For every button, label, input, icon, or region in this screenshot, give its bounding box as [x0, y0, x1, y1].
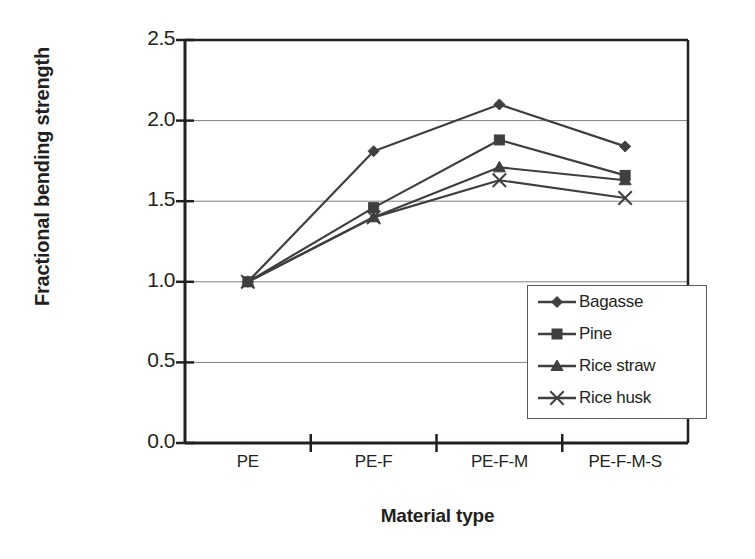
legend-item: Rice husk [528, 382, 706, 414]
x-axis-tick-label: PE-F-M-S [589, 452, 662, 472]
marker-diamond [620, 141, 631, 152]
series-rice-husk [241, 174, 632, 289]
legend-marker-square-icon [536, 324, 578, 344]
legend-item-label: Pine [579, 324, 612, 344]
x-axis-tick-label: PE-F-M [471, 452, 528, 472]
x-axis-tick-label: PE [237, 452, 259, 472]
x-axis-tick-label: PE-F [355, 452, 393, 472]
legend-item-label: Rice straw [579, 356, 655, 376]
legend-marker-diamond-icon [536, 292, 578, 312]
chart-container: Fractional bending strength 0.00.51.01.5… [0, 0, 755, 559]
marker-triangle [493, 161, 505, 172]
legend-marker-cross-icon [536, 388, 578, 408]
series-line [248, 140, 625, 282]
marker-square [494, 135, 504, 145]
series-rice-straw [242, 161, 631, 286]
chart-legend: BagassePineRice strawRice husk [527, 285, 707, 419]
y-axis-tick-label: 0.5 [105, 349, 175, 370]
x-axis-title: Material type [185, 505, 690, 527]
legend-item-label: Rice husk [579, 388, 651, 408]
legend-item-label: Bagasse [579, 292, 643, 312]
series-pine [243, 135, 630, 287]
y-axis-title: Fractional bending strength [31, 17, 54, 337]
y-axis-tick-label: 2.0 [105, 108, 175, 129]
y-axis-tick-label: 2.5 [105, 27, 175, 48]
marker-diamond [552, 297, 563, 308]
legend-marker-triangle-icon [536, 356, 578, 376]
legend-item: Pine [528, 318, 706, 350]
legend-item: Bagasse [528, 286, 706, 318]
y-axis-tick-label: 1.0 [105, 269, 175, 290]
y-axis-tick-label: 0.0 [105, 430, 175, 451]
legend-item: Rice straw [528, 350, 706, 382]
series-line [248, 180, 625, 282]
marker-square [552, 329, 562, 339]
y-axis-tick-label: 1.5 [105, 188, 175, 209]
marker-diamond [494, 99, 505, 110]
